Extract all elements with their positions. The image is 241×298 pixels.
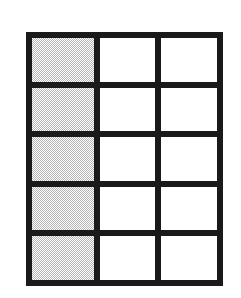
table-cell-r0c0 [32,38,94,82]
table-cell-r4c1 [100,236,156,280]
table-row [32,137,217,181]
table-row [32,38,217,82]
table-cell-r2c0 [32,137,94,181]
figure-canvas [0,0,241,298]
table-cell-r0c2 [161,38,217,82]
table-row [32,88,217,132]
table-cell-r2c1 [100,137,156,181]
table-cell-r4c0 [32,236,94,280]
grid-table [26,32,223,286]
table-cell-r3c0 [32,187,94,231]
table-cell-r1c1 [100,88,156,132]
table-cell-r2c2 [161,137,217,181]
table-cell-r3c1 [100,187,156,231]
table-cell-r3c2 [161,187,217,231]
table-row [32,187,217,231]
table-row [32,236,217,280]
table-cell-r1c2 [161,88,217,132]
table-cell-r4c2 [161,236,217,280]
table-cell-r0c1 [100,38,156,82]
table-cell-r1c0 [32,88,94,132]
